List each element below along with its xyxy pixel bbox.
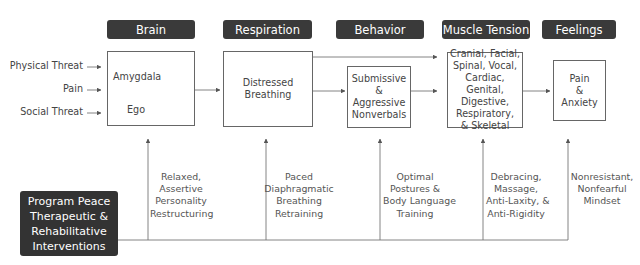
program-line: Interventions xyxy=(20,239,118,254)
intervention-respiration: Paced Diaphragmatic Breathing Retraining xyxy=(264,171,334,220)
intervention-line: Nonfearful xyxy=(570,183,634,195)
respiration-box: Distressed Breathing xyxy=(223,51,313,127)
intervention-line: Nonresistant, xyxy=(570,171,634,183)
input-social-threat: Social Threat xyxy=(20,106,83,117)
feelings-line: Anxiety xyxy=(561,97,597,109)
intervention-line: Massage, xyxy=(486,183,546,195)
header-respiration: Respiration xyxy=(223,20,312,39)
behavior-line: Submissive xyxy=(352,73,407,85)
intervention-line: Restructuring xyxy=(150,208,212,220)
intervention-line: Body Language xyxy=(383,195,447,207)
intervention-behavior: Optimal Postures & Body Language Trainin… xyxy=(383,171,447,220)
intervention-line: Paced xyxy=(264,171,334,183)
program-line: Program Peace xyxy=(20,194,118,209)
intervention-line: Relaxed, xyxy=(150,171,212,183)
intervention-line: Assertive xyxy=(150,183,212,195)
feelings-line: & xyxy=(576,85,583,97)
muscle-line: Digestive, xyxy=(461,96,509,108)
muscle-tension-box: Cranial, Facial, Spinal, Vocal, Cardiac,… xyxy=(447,52,523,128)
muscle-line: Spinal, Vocal, xyxy=(453,60,517,72)
intervention-line: Training xyxy=(383,208,447,220)
header-brain: Brain xyxy=(107,20,195,39)
ego-label: Ego xyxy=(127,104,145,116)
brain-box: Amygdala Ego xyxy=(107,51,195,126)
behavior-line: Aggressive xyxy=(353,97,406,109)
input-physical-threat: Physical Threat xyxy=(10,60,83,71)
amygdala-label: Amygdala xyxy=(113,71,161,83)
program-line: Rehabilitative xyxy=(20,224,118,239)
intervention-feelings: Nonresistant, Nonfearful Mindset xyxy=(570,171,634,208)
behavior-line: & xyxy=(375,85,382,97)
intervention-line: Anti-Laxity, & xyxy=(486,195,546,207)
intervention-line: Retraining xyxy=(264,208,334,220)
distressed-breathing-label: Distressed Breathing xyxy=(224,77,312,101)
muscle-line: Cardiac, Genital, xyxy=(448,72,522,96)
intervention-muscle: Debracing, Massage, Anti-Laxity, & Anti-… xyxy=(486,171,546,220)
header-muscle-tension: Muscle Tension xyxy=(442,20,530,39)
intervention-line: Breathing xyxy=(264,195,334,207)
intervention-line: Diaphragmatic xyxy=(264,183,334,195)
intervention-line: Mindset xyxy=(570,195,634,207)
intervention-line: Debracing, xyxy=(486,171,546,183)
feelings-line: Pain xyxy=(570,73,590,85)
intervention-brain: Relaxed, Assertive Personality Restructu… xyxy=(150,171,212,220)
behavior-box: Submissive & Aggressive Nonverbals xyxy=(347,66,411,128)
program-line: Therapeutic & xyxy=(20,209,118,224)
header-feelings: Feelings xyxy=(542,20,616,39)
intervention-line: Anti-Rigidity xyxy=(486,208,546,220)
feelings-box: Pain & Anxiety xyxy=(553,60,606,121)
muscle-line: Cranial, Facial, xyxy=(450,48,520,60)
intervention-line: Personality xyxy=(150,195,212,207)
input-pain: Pain xyxy=(63,83,83,94)
muscle-line: Respiratory, xyxy=(456,108,514,120)
intervention-line: Optimal xyxy=(383,171,447,183)
intervention-line: Postures & xyxy=(383,183,447,195)
program-peace-box: Program Peace Therapeutic & Rehabilitati… xyxy=(20,191,118,256)
muscle-line: & Skeletal xyxy=(461,120,510,132)
header-behavior: Behavior xyxy=(336,20,424,39)
behavior-line: Nonverbals xyxy=(352,109,406,121)
